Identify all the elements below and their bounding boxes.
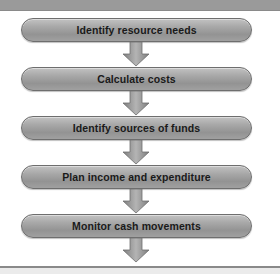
flowchart: Identify resource needs Calculate costs … [0,0,280,274]
down-arrow-icon [121,91,151,116]
step-label: Identify resource needs [76,24,196,36]
step-label: Identify sources of funds [73,122,200,134]
down-arrow-icon [121,189,151,214]
step-label: Calculate costs [97,73,176,85]
step-monitor-cash-movements: Monitor cash movements [21,214,252,238]
step-label: Plan income and expenditure [62,171,211,183]
step-calculate-costs: Calculate costs [21,67,252,91]
step-label: Monitor cash movements [72,220,201,232]
footer-band [0,268,280,274]
step-identify-sources-of-funds: Identify sources of funds [21,116,252,140]
step-plan-income-and-expenditure: Plan income and expenditure [21,165,252,189]
down-arrow-icon [121,42,151,67]
down-arrow-icon [121,238,151,263]
step-identify-resource-needs: Identify resource needs [21,18,252,42]
down-arrow-icon [121,140,151,165]
